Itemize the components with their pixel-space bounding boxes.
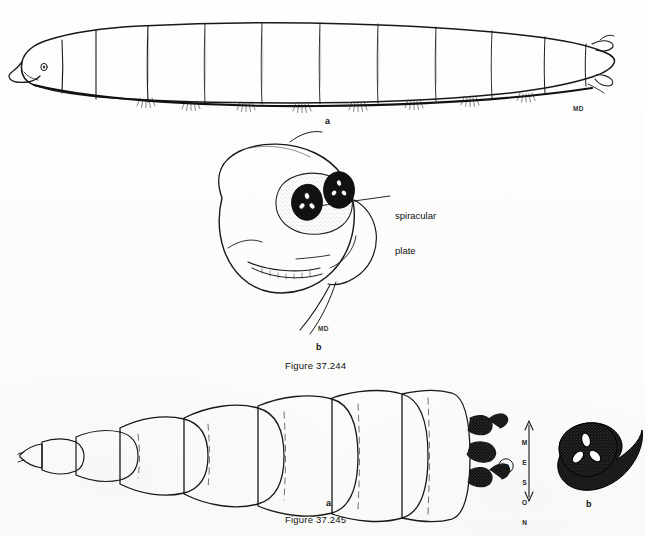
- svg-text:P: P: [503, 462, 509, 472]
- annotation-spiracular-plate: spiracular plate: [395, 186, 436, 269]
- annotation-spiracular-plate-line1: spiracular: [395, 210, 436, 222]
- illustration-plate: P: [0, 0, 645, 536]
- meson-letter-o: O: [519, 500, 530, 507]
- meson-letter-n: N: [519, 520, 530, 527]
- figure-37-244-caption: Figure 37.244: [285, 360, 346, 371]
- figure-37-245-caption: Figure 37.245: [285, 514, 346, 525]
- figure-37-245-part-b-label: b: [586, 499, 592, 510]
- annotation-meson: M E S O N: [519, 427, 530, 533]
- meson-letter-s: S: [519, 480, 530, 487]
- meson-letter-m: M: [519, 440, 530, 447]
- figure-37-244-part-a: [9, 23, 615, 113]
- artist-mark-md-middle: MD: [318, 325, 329, 333]
- figure-37-245-part-b: [558, 423, 643, 491]
- artist-mark-md-top: MD: [573, 105, 584, 113]
- figure-37-244-part-b: [219, 131, 390, 334]
- meson-letter-e: E: [519, 460, 530, 467]
- figure-37-244-part-a-label: a: [325, 116, 330, 127]
- figure-37-245-part-a-label: a: [326, 498, 331, 509]
- figure-37-245-part-a: [18, 390, 510, 521]
- figure-37-244-part-b-label: b: [316, 342, 322, 353]
- annotation-spiracular-plate-line2: plate: [395, 245, 436, 257]
